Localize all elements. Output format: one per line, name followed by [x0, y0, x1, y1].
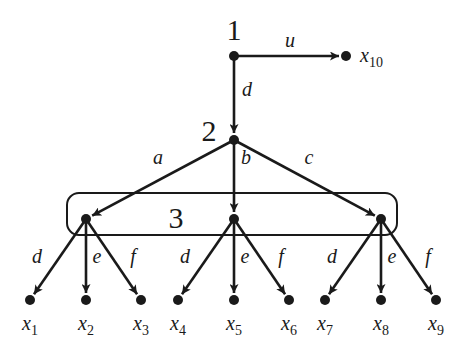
edge-label: d: [180, 245, 191, 267]
player-label-1: 1: [227, 13, 242, 46]
terminal-node-x5: [229, 295, 239, 305]
terminal-label-x2: x2: [77, 312, 94, 338]
terminal-node-x3: [136, 295, 146, 305]
player-label-2: 2: [202, 114, 217, 147]
terminal-label-x5: x5: [225, 312, 242, 338]
terminal-label-x8: x8: [372, 312, 389, 338]
edge-label: d: [32, 245, 43, 267]
terminal-label-x3: x3: [132, 312, 149, 338]
terminal-node-x4: [173, 295, 183, 305]
terminal-node-x8: [376, 295, 386, 305]
decision-node-1: [229, 51, 239, 61]
edge-label: e: [241, 245, 250, 267]
terminal-label-x4: x4: [169, 312, 186, 338]
edge-label: f: [278, 245, 286, 268]
edge-label: c: [305, 146, 314, 168]
information-set-box: [67, 193, 397, 235]
terminal-label-x6: x6: [280, 312, 297, 338]
terminal-node-x2: [81, 295, 91, 305]
edge-label: a: [153, 146, 163, 168]
terminal-node-x9: [431, 295, 441, 305]
decision-node-3: [376, 214, 386, 224]
edge-label: f: [425, 245, 433, 268]
edge-label: d: [242, 78, 253, 100]
edge-label: u: [285, 29, 295, 51]
terminal-label-x10: x10: [359, 44, 383, 70]
decision-node-3: [81, 214, 91, 224]
terminal-label-x7: x7: [316, 312, 333, 338]
edge-label: e: [93, 245, 102, 267]
decision-node-2: [229, 135, 239, 145]
info-set-box: [67, 193, 397, 235]
decision-node-3: [229, 214, 239, 224]
terminal-node-x7: [320, 295, 330, 305]
edge-label: f: [130, 245, 138, 268]
edge-label: e: [388, 245, 397, 267]
edge-label: d: [327, 245, 338, 267]
player-label-3: 3: [169, 201, 184, 234]
terminal-label-x1: x1: [21, 312, 38, 338]
terminal-node-x10: [341, 51, 351, 61]
edge-n2-n3a: [92, 140, 234, 216]
terminal-node-x6: [284, 295, 294, 305]
edge-label: b: [241, 146, 251, 168]
game-tree-diagram: udabcdefdefdef123x1x2x3x4x5x6x7x8x9x10: [0, 0, 466, 359]
terminal-node-x1: [25, 295, 35, 305]
terminal-label-x9: x9: [427, 312, 444, 338]
